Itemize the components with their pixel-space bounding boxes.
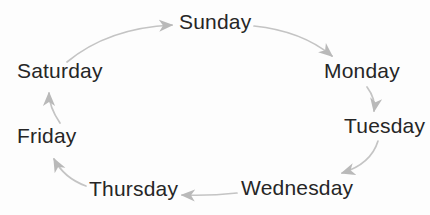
day-label-monday: Monday bbox=[324, 60, 400, 81]
arrow-saturday-to-sunday-icon bbox=[67, 25, 172, 62]
week-cycle-diagram: Sunday Monday Tuesday Wednesday Thursday… bbox=[0, 0, 430, 215]
day-label-friday: Friday bbox=[17, 125, 77, 146]
arrow-thursday-to-friday-icon bbox=[54, 159, 86, 186]
day-label-saturday: Saturday bbox=[17, 60, 103, 81]
arrow-wednesday-to-thursday-icon bbox=[182, 193, 237, 195]
day-label-sunday: Sunday bbox=[179, 11, 251, 32]
arrow-tuesday-to-wednesday-icon bbox=[342, 141, 378, 173]
arrow-monday-to-tuesday-icon bbox=[367, 87, 374, 111]
arrow-friday-to-saturday-icon bbox=[49, 93, 60, 123]
day-label-thursday: Thursday bbox=[89, 178, 178, 199]
day-label-wednesday: Wednesday bbox=[241, 177, 353, 198]
day-label-tuesday: Tuesday bbox=[344, 115, 425, 136]
arrow-sunday-to-monday-icon bbox=[254, 26, 332, 56]
